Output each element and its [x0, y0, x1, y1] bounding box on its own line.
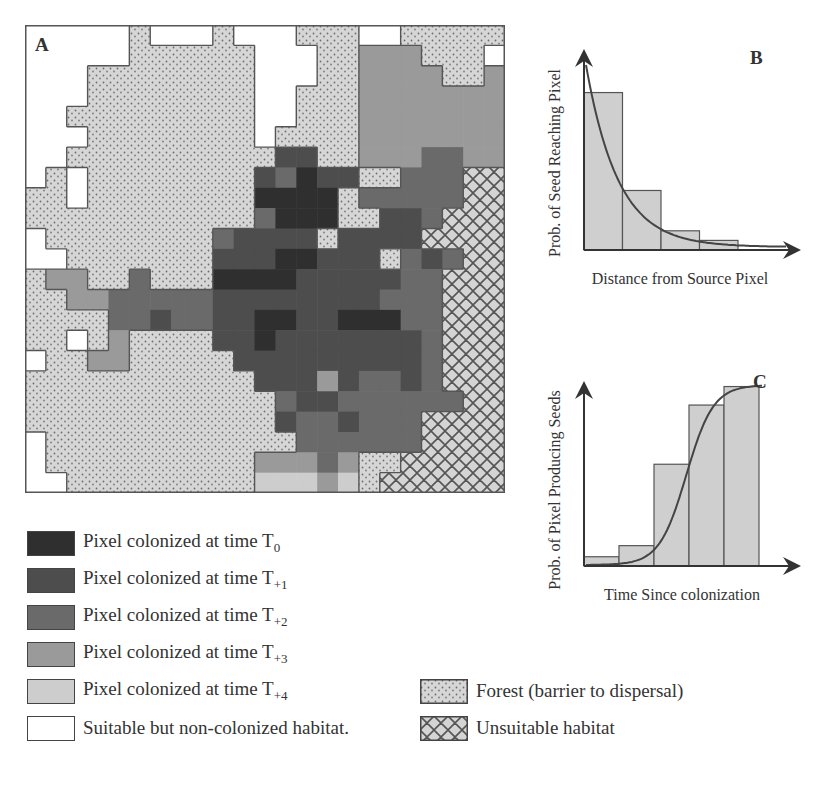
map-cell: [463, 147, 484, 168]
map-cell: [213, 25, 234, 46]
map-cell: [296, 228, 317, 249]
map-cell: [255, 310, 276, 331]
map-cell: [275, 167, 296, 188]
map-cell: [234, 66, 255, 87]
map-cell: [422, 66, 443, 87]
map-cell: [46, 452, 67, 473]
map-cell: [275, 45, 296, 66]
map-cell: [255, 412, 276, 433]
map-cell: [129, 45, 150, 66]
map-cell: [67, 330, 88, 351]
map-cell: [171, 391, 192, 412]
map-cell: [338, 371, 359, 392]
legend-label-t0: Pixel colonized at time T0: [83, 530, 280, 556]
map-cell: [401, 25, 422, 46]
map-cell: [463, 371, 484, 392]
map-cell: [380, 391, 401, 412]
map-cell: [234, 147, 255, 168]
map-cell: [275, 208, 296, 229]
chart-bar: [689, 405, 724, 566]
map-cell: [422, 45, 443, 66]
map-cell: [192, 188, 213, 209]
chart-b-y-label: Prob. of Seed Reaching Pixel: [546, 68, 564, 257]
map-cell: [108, 167, 129, 188]
map-cell: [192, 208, 213, 229]
map-cell: [67, 25, 88, 46]
map-cell: [171, 249, 192, 270]
chart-bar: [584, 93, 623, 250]
map-cell: [88, 269, 109, 290]
legend-label-t4: Pixel colonized at time T+4: [83, 678, 288, 704]
map-cell: [150, 452, 171, 473]
map-cell: [484, 45, 505, 66]
map-cell: [296, 269, 317, 290]
map-cell: [359, 290, 380, 311]
map-cell: [338, 351, 359, 372]
map-cell: [192, 249, 213, 270]
map-cell: [359, 66, 380, 87]
chart-c-y-label: Prob. of Pixel Producing Seeds: [546, 390, 564, 590]
map-cell: [171, 106, 192, 127]
map-cell: [67, 208, 88, 229]
map-cell: [422, 127, 443, 148]
map-cell: [88, 106, 109, 127]
map-cell: [359, 86, 380, 107]
map-cell: [255, 106, 276, 127]
map-cell: [213, 228, 234, 249]
map-cell: [88, 330, 109, 351]
map-cell: [192, 45, 213, 66]
map-cell: [442, 25, 463, 46]
map-cell: [296, 310, 317, 331]
map-cell: [338, 452, 359, 473]
map-cell: [380, 167, 401, 188]
map-cell: [108, 452, 129, 473]
map-cell: [171, 45, 192, 66]
map-cell: [275, 452, 296, 473]
map-cell: [401, 106, 422, 127]
map-cell: [25, 290, 46, 311]
map-cell: [422, 106, 443, 127]
map-cell: [463, 452, 484, 473]
map-cell: [255, 330, 276, 351]
map-cell: [108, 310, 129, 331]
map-cell: [129, 188, 150, 209]
map-cell: [150, 127, 171, 148]
map-cell: [401, 473, 422, 493]
map-cell: [129, 371, 150, 392]
map-cell: [484, 208, 505, 229]
map-cell: [275, 310, 296, 331]
map-cell: [442, 330, 463, 351]
map-cell: [213, 86, 234, 107]
map-cell: [401, 127, 422, 148]
map-cell: [88, 86, 109, 107]
map-cell: [88, 432, 109, 453]
map-cell: [463, 228, 484, 249]
map-cell: [46, 290, 67, 311]
map-cell: [46, 412, 67, 433]
map-cell: [150, 269, 171, 290]
map-cell: [129, 351, 150, 372]
map-cell: [317, 208, 338, 229]
map-cell: [317, 228, 338, 249]
map-cell: [25, 147, 46, 168]
map-cell: [234, 86, 255, 107]
map-cell: [234, 25, 255, 46]
map-cell: [150, 66, 171, 87]
map-cell: [380, 106, 401, 127]
map-cell: [234, 106, 255, 127]
map-cell: [255, 127, 276, 148]
map-cell: [150, 351, 171, 372]
map-cell: [484, 351, 505, 372]
map-cell: [46, 351, 67, 372]
map-cell: [338, 391, 359, 412]
map-cell: [359, 391, 380, 412]
map-cell: [46, 432, 67, 453]
map-cell: [296, 371, 317, 392]
map-cell: [192, 127, 213, 148]
map-cell: [422, 371, 443, 392]
legend-item-non-colonized: Suitable but non-colonized habitat.: [27, 715, 349, 741]
map-cell: [192, 106, 213, 127]
map-cell: [129, 249, 150, 270]
map-cell: [213, 391, 234, 412]
map-cell: [46, 371, 67, 392]
